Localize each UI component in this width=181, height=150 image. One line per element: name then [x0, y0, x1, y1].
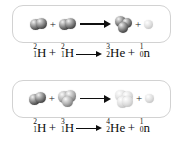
plus-icon: +	[133, 93, 145, 104]
element-symbol: He	[110, 120, 125, 135]
nucleus-deuterium-1a	[30, 18, 47, 31]
nuclide-deuterium: 2 1	[31, 44, 37, 57]
nucleus-deuterium-1b	[59, 18, 76, 31]
plus-operator: +	[46, 45, 58, 60]
plus-operator: +	[46, 120, 58, 135]
element-symbol: H	[37, 45, 46, 60]
nuclide-neutron: 1 0	[138, 44, 144, 57]
nuclide-deuterium: 2 1	[31, 119, 37, 132]
reaction-panel-1: + +	[12, 5, 171, 43]
reaction-diagram-2: + +	[13, 81, 170, 117]
arrow-right-icon	[76, 124, 102, 133]
arrow-right-icon	[80, 20, 111, 29]
nuclide-tritium: 3 1	[59, 119, 65, 132]
nucleus-helium-3	[115, 16, 132, 33]
nucleus-deuterium-2	[29, 92, 46, 105]
plus-operator: +	[125, 45, 137, 60]
plus-icon: +	[46, 93, 58, 104]
reaction-block-2: + +	[0, 75, 181, 150]
reaction-diagram-1: + +	[13, 6, 170, 42]
nucleon-icon	[144, 20, 153, 29]
fusion-reaction-figure: + +	[0, 0, 181, 149]
particle-symbol: n	[144, 45, 151, 60]
equation-1: 2 1 H+ 2 1 H 3 2 He+ 1 0 n	[0, 44, 181, 59]
element-symbol: H	[65, 45, 74, 60]
element-symbol: H	[65, 120, 74, 135]
nucleon-icon	[118, 22, 129, 33]
plus-icon: +	[132, 19, 144, 30]
reaction-block-1: + +	[0, 0, 181, 75]
element-symbol: He	[110, 45, 125, 60]
equation-2: 2 1 H+ 3 1 H 4 2 He+ 1 0 n	[0, 119, 181, 134]
particle-symbol: n	[144, 120, 151, 135]
nucleon-icon	[62, 96, 74, 108]
nucleon-icon	[122, 96, 133, 107]
plus-operator: +	[125, 120, 137, 135]
nucleon-icon	[35, 92, 46, 103]
nucleus-neutron-1	[144, 20, 153, 29]
nucleus-tritium	[58, 90, 76, 107]
nucleon-icon	[65, 18, 76, 29]
reaction-panel-2: + +	[12, 80, 171, 118]
arrow-right-icon	[80, 94, 111, 103]
nuclide-helium: 3 2	[104, 44, 110, 57]
nucleon-icon	[36, 18, 47, 29]
nuclide-helium: 4 2	[104, 119, 110, 132]
nucleus-helium-4	[115, 90, 133, 108]
arrow-right-icon	[76, 50, 102, 59]
element-symbol: H	[37, 120, 46, 135]
nucleus-neutron-2	[145, 94, 154, 103]
nuclide-deuterium: 2 1	[59, 44, 65, 57]
nucleon-icon	[145, 94, 154, 103]
plus-icon: +	[47, 19, 59, 30]
nuclide-neutron: 1 0	[138, 119, 144, 132]
